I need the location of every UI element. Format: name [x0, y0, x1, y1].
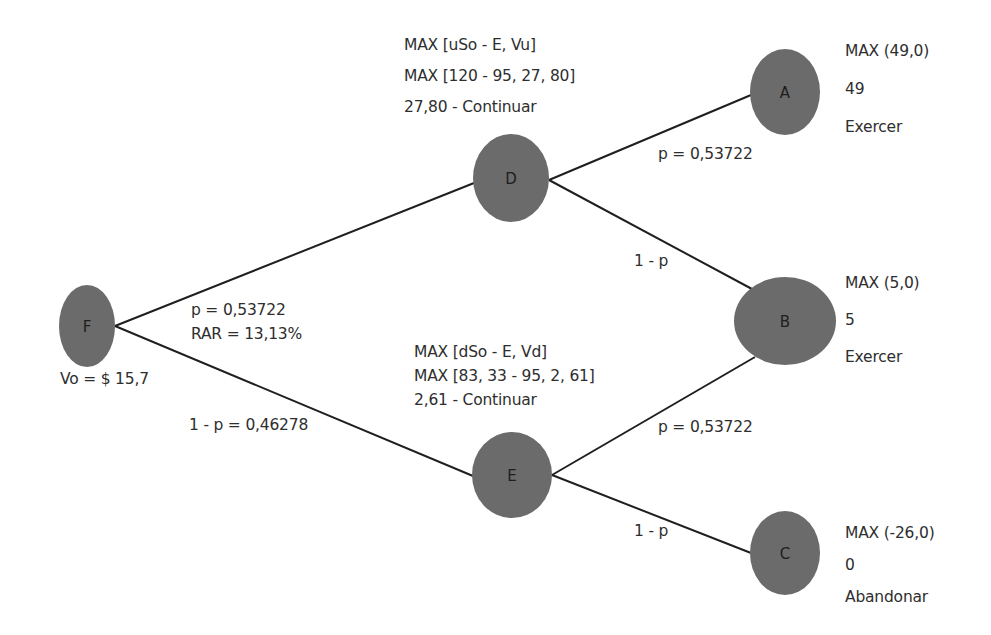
node-d-line-2: MAX [120 - 95, 27, 80]: [404, 69, 575, 85]
node-e-label: E: [507, 467, 516, 485]
node-d-line-3: 27,80 - Continuar: [404, 100, 536, 116]
node-d-line-1: MAX [uSo - E, Vu]: [404, 38, 536, 54]
node-b-line-3: Exercer: [845, 350, 902, 366]
edge-e-c: [552, 475, 751, 553]
node-d-label: D: [505, 170, 517, 188]
edge-d-b-prob: 1 - p: [634, 254, 668, 270]
edge-e-c-prob: 1 - p: [634, 524, 668, 540]
node-f-label: F: [83, 318, 92, 336]
node-e-line-3: 2,61 - Continuar: [414, 393, 537, 409]
node-f-value: Vo = $ 15,7: [60, 372, 149, 388]
node-c-line-1: MAX (-26,0): [845, 526, 935, 542]
edge-f-e-prob: 1 - p = 0,46278: [189, 418, 308, 434]
node-a-line-3: Exercer: [845, 120, 902, 136]
edge-f-d-rar: RAR = 13,13%: [191, 327, 302, 343]
edge-f-d: [115, 183, 474, 326]
node-a-line-1: MAX (49,0): [845, 44, 929, 60]
node-e-line-2: MAX [83, 33 - 95, 2, 61]: [414, 369, 595, 385]
edge-e-b-prob: p = 0,53722: [658, 420, 753, 436]
tree-diagram: F D E A B C: [0, 0, 991, 635]
edge-d-a-prob: p = 0,53722: [658, 147, 753, 163]
node-c-label: C: [780, 545, 790, 563]
edge-d-b: [549, 180, 752, 289]
edge-d-a: [549, 95, 751, 180]
node-c-line-2: 0: [845, 558, 855, 574]
node-e-line-1: MAX [dSo - E, Vd]: [414, 345, 547, 361]
node-b-line-1: MAX (5,0): [845, 276, 919, 292]
node-a-label: A: [780, 84, 791, 102]
node-a-line-2: 49: [845, 82, 864, 98]
node-b-label: B: [780, 313, 790, 331]
edge-f-d-prob: p = 0,53722: [191, 303, 286, 319]
node-b-line-2: 5: [845, 313, 855, 329]
node-c-line-3: Abandonar: [845, 590, 928, 606]
